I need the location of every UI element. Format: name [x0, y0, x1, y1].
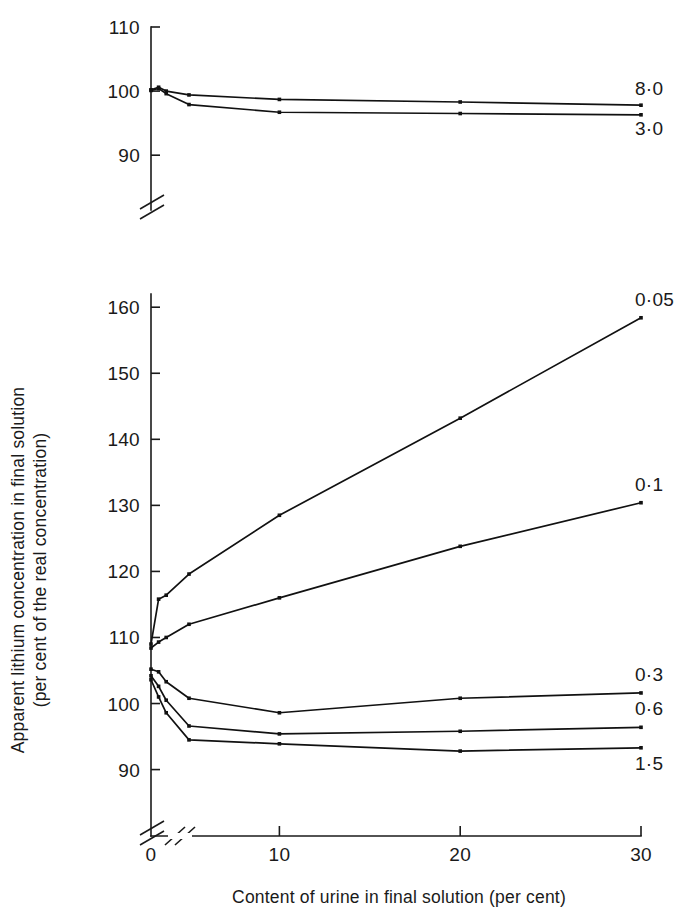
data-point	[458, 749, 462, 753]
data-point	[639, 746, 643, 750]
data-point	[278, 742, 282, 746]
y-tick-label: 160	[107, 297, 140, 318]
data-point	[458, 696, 462, 700]
series-label-0·3: 0·3	[635, 664, 663, 685]
data-point	[458, 416, 462, 420]
data-point	[278, 98, 282, 102]
data-point	[187, 622, 191, 626]
data-point	[157, 685, 161, 689]
data-point	[278, 110, 282, 114]
data-point	[639, 316, 643, 320]
x-tick-label: 20	[449, 844, 471, 865]
data-point	[639, 113, 643, 117]
series-label-0·05: 0·05	[635, 289, 674, 310]
x-tick-label: 10	[269, 844, 291, 865]
series-label-8·0: 8·0	[635, 78, 663, 99]
data-point	[149, 678, 153, 682]
y-tick-label: 110	[109, 17, 140, 38]
data-point	[187, 93, 191, 97]
data-point	[164, 92, 168, 96]
data-point	[157, 670, 161, 674]
data-point	[164, 698, 168, 702]
data-point	[639, 726, 643, 730]
data-point	[164, 636, 168, 640]
x-axis-title: Content of urine in final solution (per …	[232, 887, 566, 907]
y-tick-label: 110	[109, 627, 140, 648]
data-point	[278, 711, 282, 715]
data-point	[639, 501, 643, 505]
data-point	[187, 572, 191, 576]
data-point	[157, 640, 161, 644]
series-label-0·1: 0·1	[635, 474, 663, 495]
data-point	[639, 691, 643, 695]
chart-canvas: 901001108·03·0 901001101201301401501600·…	[0, 0, 679, 919]
data-point	[458, 100, 462, 104]
data-point	[149, 646, 153, 650]
y-tick-label: 90	[118, 145, 140, 166]
data-point	[278, 596, 282, 600]
data-point	[164, 593, 168, 597]
y-axis-title-line2: (per cent of the real concentration)	[30, 433, 50, 708]
data-point	[157, 597, 161, 601]
y-tick-label: 100	[107, 694, 140, 715]
data-point	[187, 724, 191, 728]
data-point	[187, 696, 191, 700]
series-label-0·6: 0·6	[635, 698, 663, 719]
y-tick-label: 140	[107, 429, 140, 450]
x-tick-label: 30	[630, 844, 652, 865]
y-tick-label: 130	[107, 495, 140, 516]
series-label-1·5: 1·5	[635, 753, 663, 774]
data-point	[149, 89, 153, 93]
data-point	[149, 674, 153, 678]
data-point	[278, 513, 282, 517]
chart-background	[0, 0, 679, 919]
x-tick-label: 0	[146, 844, 157, 865]
data-point	[187, 738, 191, 742]
data-point	[149, 642, 153, 646]
y-tick-label: 150	[107, 363, 140, 384]
y-tick-label: 90	[118, 760, 140, 781]
y-tick-label: 120	[107, 561, 140, 582]
data-point	[164, 711, 168, 715]
data-point	[157, 695, 161, 699]
data-point	[458, 112, 462, 116]
data-point	[458, 729, 462, 733]
series-label-3·0: 3·0	[635, 118, 663, 139]
figure-root: 901001108·03·0 901001101201301401501600·…	[0, 0, 679, 919]
data-point	[278, 732, 282, 736]
data-point	[187, 103, 191, 107]
data-point	[149, 667, 153, 671]
data-point	[157, 87, 161, 91]
data-point	[639, 103, 643, 107]
y-tick-label: 100	[107, 81, 140, 102]
y-axis-title-line1: Apparent lithium concentration in final …	[8, 387, 28, 754]
data-point	[164, 680, 168, 684]
data-point	[458, 545, 462, 549]
